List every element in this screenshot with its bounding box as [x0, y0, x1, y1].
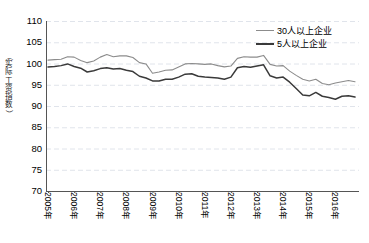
y-axis-tick-80: 80: [16, 144, 42, 153]
legend-swatch-2: [256, 43, 274, 45]
y-axis-tick-75: 75: [16, 165, 42, 174]
y-axis-tick-90: 90: [16, 101, 42, 110]
x-axis-tick-2012年: 2012年: [226, 192, 235, 220]
x-axis-tick-2005年: 2005年: [43, 192, 52, 220]
x-axis-tick-2013年: 2013年: [252, 192, 261, 220]
y-axis-tick-70: 70: [16, 186, 42, 195]
real-wage-index-chart: （ 实 际 工 资 指 数 ） 110105100959085807570 20…: [0, 0, 369, 243]
x-axis-tick-2010年: 2010年: [174, 192, 183, 220]
y-axis-title-paren-open: （: [4, 49, 12, 63]
clipped-header-text: [6, 0, 266, 5]
y-axis-tick-110: 110: [16, 16, 42, 25]
x-axis-tick-labels: 2005年2006年2007年2008年2009年2010年2011年2012年…: [46, 192, 359, 243]
x-axis-tick-2011年: 2011年: [200, 192, 209, 219]
y-axis-title-paren-close: ）: [4, 107, 12, 121]
x-axis-tick-2007年: 2007年: [95, 192, 104, 220]
x-axis-tick-2008年: 2008年: [121, 192, 130, 220]
y-axis-tick-85: 85: [16, 122, 42, 131]
legend-item-1: 30人以上企业: [256, 24, 368, 37]
series-line-2: [48, 64, 355, 99]
legend-label-2: 5人以上企业: [277, 37, 327, 50]
legend-swatch-1: [256, 30, 274, 31]
y-axis-tick-100: 100: [16, 59, 42, 68]
x-axis-tick-2015年: 2015年: [304, 192, 313, 220]
x-axis-tick-2016年: 2016年: [330, 192, 339, 220]
y-axis-tick-105: 105: [16, 37, 42, 46]
legend-item-2: 5人以上企业: [256, 37, 368, 50]
legend-label-1: 30人以上企业: [277, 24, 332, 37]
series-line-1: [48, 55, 355, 85]
x-axis-tick-2014年: 2014年: [278, 192, 287, 220]
x-axis-tick-2006年: 2006年: [69, 192, 78, 220]
y-axis-tick-95: 95: [16, 80, 42, 89]
chart-legend: 30人以上企业5人以上企业: [256, 24, 368, 50]
y-axis-tick-labels: 110105100959085807570: [12, 0, 42, 243]
x-axis-tick-2009年: 2009年: [148, 192, 157, 220]
